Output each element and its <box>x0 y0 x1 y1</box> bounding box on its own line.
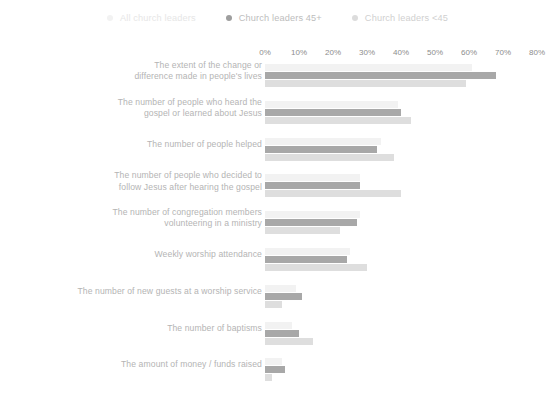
x-axis-tick: 0% <box>259 48 271 57</box>
bar-church-leaders-45[interactable] <box>265 117 411 124</box>
legend-item-church-leaders-under-45[interactable]: Church leaders <45 <box>352 13 448 23</box>
category-label: The number of people who decided tofollo… <box>27 170 262 192</box>
legend-label-church-leaders-45-plus: Church leaders 45+ <box>239 13 322 23</box>
category-label: The number of baptisms <box>27 323 262 334</box>
bar-church-leaders-45[interactable] <box>265 190 401 197</box>
x-axis-tick: 40% <box>393 48 409 57</box>
category-label: The amount of money / funds raised <box>27 359 262 370</box>
x-axis-tick: 30% <box>359 48 375 57</box>
chart-row-group: The number of people who heard thegospel… <box>0 101 555 135</box>
chart-row-group: The amount of money / funds raised <box>0 358 555 392</box>
chart-row-group: The number of new guests at a worship se… <box>0 285 555 319</box>
bar-all-church-leaders[interactable] <box>265 101 398 108</box>
bar-all-church-leaders[interactable] <box>265 64 472 71</box>
chart-row-group: Weekly worship attendance <box>0 248 555 282</box>
category-label: The number of new guests at a worship se… <box>27 286 262 297</box>
x-axis-tick: 10% <box>291 48 307 57</box>
chart-row-group: The number of people helped <box>0 138 555 172</box>
x-axis-tick: 80% <box>529 48 545 57</box>
category-label: The number of people who heard thegospel… <box>27 97 262 119</box>
legend-item-church-leaders-45-plus[interactable]: Church leaders 45+ <box>226 13 322 23</box>
chart-legend: All church leaders Church leaders 45+ Ch… <box>0 13 555 23</box>
chart-row-group: The number of congregation membersvolunt… <box>0 211 555 245</box>
bar-church-leaders-45[interactable] <box>265 301 282 308</box>
bar-all-church-leaders[interactable] <box>265 285 296 292</box>
bar-church-leaders-45[interactable] <box>265 182 360 189</box>
category-label: The extent of the change ordifference ma… <box>27 60 262 82</box>
legend-dot-all-church-leaders <box>107 15 113 21</box>
category-label: The number of congregation membersvolunt… <box>27 207 262 229</box>
bar-church-leaders-45[interactable] <box>265 72 496 79</box>
bar-church-leaders-45[interactable] <box>265 330 299 337</box>
x-axis-tick: 20% <box>325 48 341 57</box>
legend-label-church-leaders-under-45: Church leaders <45 <box>365 13 448 23</box>
x-axis-tick: 70% <box>495 48 511 57</box>
bar-all-church-leaders[interactable] <box>265 248 350 255</box>
legend-dot-church-leaders-45-plus <box>226 15 232 21</box>
category-label: Weekly worship attendance <box>27 249 262 260</box>
bar-church-leaders-45[interactable] <box>265 219 357 226</box>
bar-church-leaders-45[interactable] <box>265 227 340 234</box>
chart-row-group: The extent of the change ordifference ma… <box>0 64 555 98</box>
bar-church-leaders-45[interactable] <box>265 366 285 373</box>
x-axis: 0%10%20%30%40%50%60%70%80% <box>0 48 555 60</box>
bar-all-church-leaders[interactable] <box>265 358 282 365</box>
x-axis-tick: 60% <box>461 48 477 57</box>
chart-row-group: The number of baptisms <box>0 322 555 356</box>
bar-church-leaders-45[interactable] <box>265 256 347 263</box>
bar-all-church-leaders[interactable] <box>265 322 292 329</box>
chart-row-group: The number of people who decided tofollo… <box>0 174 555 208</box>
legend-item-all-church-leaders[interactable]: All church leaders <box>107 13 196 23</box>
category-label: The number of people helped <box>27 139 262 150</box>
bar-church-leaders-45[interactable] <box>265 109 401 116</box>
x-axis-tick: 50% <box>427 48 443 57</box>
bar-all-church-leaders[interactable] <box>265 211 360 218</box>
bar-church-leaders-45[interactable] <box>265 154 394 161</box>
bar-all-church-leaders[interactable] <box>265 174 360 181</box>
legend-dot-church-leaders-under-45 <box>352 15 358 21</box>
bar-church-leaders-45[interactable] <box>265 293 302 300</box>
bar-church-leaders-45[interactable] <box>265 80 466 87</box>
plot-area: The extent of the change ordifference ma… <box>0 64 555 394</box>
bar-church-leaders-45[interactable] <box>265 338 313 345</box>
bar-church-leaders-45[interactable] <box>265 146 377 153</box>
legend-label-all-church-leaders: All church leaders <box>120 13 196 23</box>
bar-church-leaders-45[interactable] <box>265 264 367 271</box>
bar-church-leaders-45[interactable] <box>265 374 272 381</box>
bar-all-church-leaders[interactable] <box>265 138 381 145</box>
chart-container: All church leaders Church leaders 45+ Ch… <box>0 0 555 403</box>
